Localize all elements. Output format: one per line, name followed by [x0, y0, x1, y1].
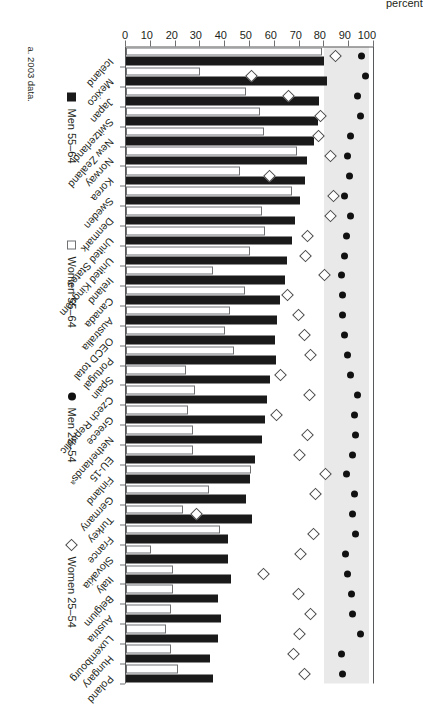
point-men-25-54 — [346, 172, 353, 179]
bar-men-55-64 — [126, 514, 252, 523]
category-tick — [120, 623, 125, 624]
bar-women-55-64 — [126, 565, 173, 574]
bar-women-55-64 — [126, 584, 173, 593]
open-square-icon — [68, 240, 77, 249]
bar-men-55-64 — [126, 574, 231, 583]
category-tick — [120, 126, 125, 127]
category-tick — [120, 384, 125, 385]
legend-item: Men 25–54 — [66, 392, 78, 462]
category-tick — [120, 643, 125, 644]
bar-men-55-64 — [126, 375, 270, 384]
category-tick — [120, 106, 125, 107]
point-men-25-54 — [357, 630, 364, 637]
category-tick — [120, 146, 125, 147]
bar-women-55-64 — [126, 226, 265, 235]
category-tick — [120, 583, 125, 584]
percent-tick — [323, 40, 324, 46]
percent-tick — [249, 40, 250, 46]
bar-men-55-64 — [126, 256, 287, 265]
bar-women-55-64 — [126, 604, 171, 613]
category-tick — [120, 185, 125, 186]
bar-women-55-64 — [126, 624, 166, 633]
point-men-25-54 — [347, 132, 354, 139]
category-tick — [120, 205, 125, 206]
bar-women-55-64 — [126, 47, 322, 56]
bar-women-55-64 — [126, 107, 260, 116]
bar-women-55-64 — [126, 346, 234, 355]
bar-men-55-64 — [126, 654, 210, 663]
bar-women-55-64 — [126, 206, 262, 215]
point-men-25-54 — [358, 52, 365, 59]
bar-men-55-64 — [126, 634, 218, 643]
category-tick — [120, 564, 125, 565]
bar-women-55-64 — [126, 127, 264, 136]
bar-men-55-64 — [126, 494, 246, 503]
legend-label: Women 55–64 — [66, 256, 78, 327]
filled-square-icon — [68, 92, 77, 101]
legend-item: Men 55–64 — [66, 92, 78, 163]
bar-men-55-64 — [126, 614, 221, 623]
point-men-25-54 — [342, 550, 349, 557]
bar-women-55-64 — [126, 385, 195, 394]
bar-women-55-64 — [126, 306, 230, 315]
point-men-25-54 — [352, 431, 359, 438]
bar-women-55-64 — [126, 644, 171, 653]
bar-women-55-64 — [126, 326, 225, 335]
legend-item: Women 25–54 — [66, 540, 78, 627]
category-tick — [120, 683, 125, 684]
percent-tick — [373, 40, 374, 46]
point-men-25-54 — [357, 112, 364, 119]
bar-men-55-64 — [126, 674, 213, 683]
bar-women-55-64 — [126, 505, 183, 514]
bar-men-55-64 — [126, 594, 218, 603]
category-tick — [120, 66, 125, 67]
filled-circle-icon — [68, 392, 76, 400]
bar-women-55-64 — [126, 67, 200, 76]
percent-tick — [125, 40, 126, 46]
legend-label: Men 55–64 — [66, 108, 78, 163]
bar-women-55-64 — [126, 286, 245, 295]
percent-tick-label: 100 — [342, 28, 376, 40]
percent-tick — [348, 40, 349, 46]
category-tick — [120, 365, 125, 366]
bar-women-55-64 — [126, 266, 213, 275]
category-tick — [120, 524, 125, 525]
bar-men-55-64 — [126, 554, 228, 563]
bar-men-55-64 — [126, 335, 275, 344]
percent-tick — [150, 40, 151, 46]
chart-legend: Men 55–64Women 55–64Men 25–54Women 25–54 — [56, 92, 82, 672]
bar-men-55-64 — [126, 534, 228, 543]
legend-label: Men 25–54 — [66, 407, 78, 462]
bar-men-55-64 — [126, 76, 327, 85]
bar-men-55-64 — [126, 116, 318, 125]
bar-men-55-64 — [126, 136, 314, 145]
category-tick — [120, 285, 125, 286]
point-men-25-54 — [341, 252, 348, 259]
bar-men-55-64 — [126, 275, 285, 284]
category-tick — [120, 325, 125, 326]
percent-tick — [299, 40, 300, 46]
bar-women-55-64 — [126, 146, 297, 155]
category-tick — [120, 484, 125, 485]
bar-women-55-64 — [126, 465, 251, 474]
category-tick — [120, 663, 125, 664]
bar-women-55-64 — [126, 186, 292, 195]
bar-men-55-64 — [126, 176, 305, 185]
bar-men-55-64 — [126, 216, 295, 225]
bar-women-55-64 — [126, 525, 220, 534]
percent-axis-title: percent — [386, 0, 423, 8]
bar-women-55-64 — [126, 664, 178, 673]
bar-men-55-64 — [126, 56, 324, 65]
category-tick — [120, 345, 125, 346]
category-tick — [120, 603, 125, 604]
percent-tick — [274, 40, 275, 46]
legend-label: Women 25–54 — [66, 556, 78, 627]
bar-men-55-64 — [126, 435, 262, 444]
bar-women-55-64 — [126, 87, 246, 96]
percent-tick — [199, 40, 200, 46]
bar-women-55-64 — [126, 445, 193, 454]
category-tick — [120, 165, 125, 166]
category-tick — [120, 544, 125, 545]
